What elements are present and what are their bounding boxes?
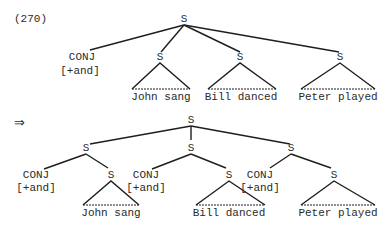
s-conjunct-3: S (288, 142, 295, 154)
s-node-2: S (226, 169, 233, 181)
clause-john-sang: John sang (131, 91, 190, 103)
clause-peter-played: Peter played (298, 207, 377, 219)
s-node-2: S (237, 51, 244, 63)
s-conjunct-1: S (83, 142, 90, 154)
s-conjunct-2: S (188, 142, 195, 154)
s-node-3: S (331, 169, 338, 181)
conj-feature: [+and] (60, 65, 100, 77)
triangle-3 (301, 63, 375, 89)
edge-root-s2 (184, 25, 240, 52)
s-node-1: S (157, 51, 164, 63)
s-node-1: S (108, 169, 115, 181)
clause-peter-played: Peter played (298, 91, 377, 103)
conj-feature-2: [+and] (126, 182, 166, 194)
clause-john-sang: John sang (81, 207, 140, 219)
root-s-node: S (188, 114, 195, 126)
conj-feature-1: [+and] (16, 182, 56, 194)
transformation-arrow: ⇒ (14, 115, 25, 130)
conj-feature-3: [+and] (240, 182, 280, 194)
tree-before: S CONJ [+and] S John sang S Bill danced … (60, 13, 377, 103)
edge-root-s-left (90, 126, 191, 144)
s-node-3: S (337, 51, 344, 63)
conj-node-2: CONJ (133, 169, 159, 181)
triangle-2 (208, 63, 276, 89)
triangle-3 (301, 181, 375, 205)
clause-bill-danced: Bill danced (205, 91, 278, 103)
syntax-tree-diagram: (270) S CONJ [+and] S John sang S Bill d… (0, 0, 388, 230)
conj-node-1: CONJ (23, 169, 49, 181)
edge-root-s-right (191, 126, 290, 144)
root-s-node: S (181, 13, 188, 25)
clause-bill-danced: Bill danced (193, 207, 266, 219)
edge-root-s1 (161, 25, 184, 52)
example-number: (270) (14, 13, 47, 25)
triangle-1 (132, 63, 190, 89)
edge-root-s3 (184, 25, 339, 52)
conj-node-3: CONJ (247, 169, 273, 181)
edge-root-conj (90, 25, 184, 50)
tree-after: S S CONJ [+and] S John sang S CONJ [+and… (16, 114, 377, 219)
conj-node: CONJ (69, 51, 95, 63)
